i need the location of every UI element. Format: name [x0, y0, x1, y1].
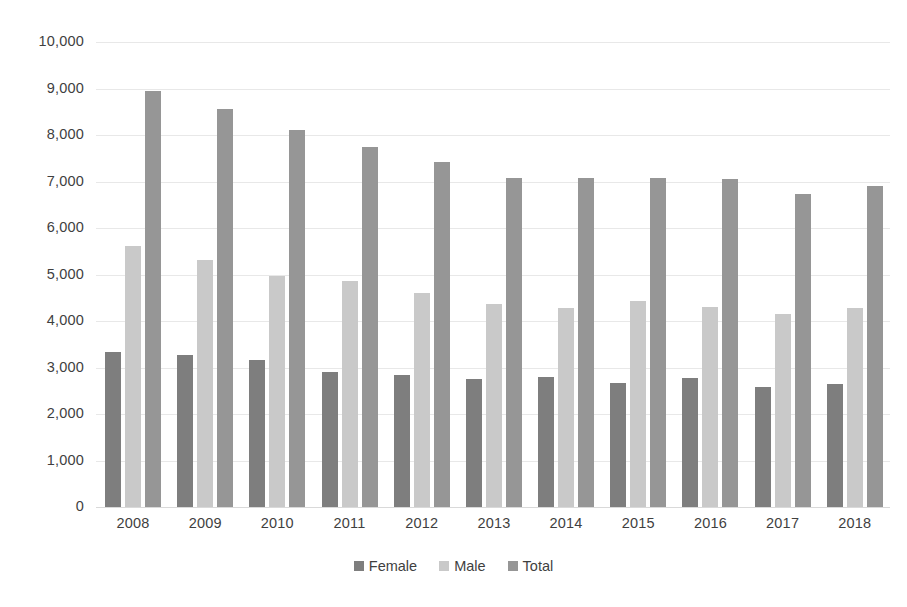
bar-group	[394, 42, 450, 507]
y-axis-tick-label: 2,000	[0, 406, 84, 421]
bar-group	[682, 42, 738, 507]
bar-group	[755, 42, 811, 507]
bar-total-2013[interactable]	[506, 178, 522, 507]
x-axis-tick-label: 2018	[815, 515, 895, 531]
y-axis-tick-label: 10,000	[0, 34, 84, 49]
bar-group	[466, 42, 522, 507]
bar-female-2009[interactable]	[177, 355, 193, 507]
bar-total-2012[interactable]	[434, 162, 450, 507]
bar-total-2015[interactable]	[650, 178, 666, 507]
x-axis-tick-label: 2012	[382, 515, 462, 531]
y-axis-tick-label: 0	[0, 499, 84, 514]
bar-total-2011[interactable]	[362, 147, 378, 507]
y-axis-tick-label: 3,000	[0, 360, 84, 375]
legend-item-female[interactable]: Female	[354, 558, 417, 574]
bar-male-2012[interactable]	[414, 293, 430, 507]
bar-total-2008[interactable]	[145, 91, 161, 507]
bar-group-bars	[755, 42, 811, 507]
bar-female-2013[interactable]	[466, 379, 482, 507]
legend-label: Male	[454, 558, 485, 574]
x-axis-tick-label: 2009	[165, 515, 245, 531]
bar-group-bars	[466, 42, 522, 507]
y-axis-tick-label: 6,000	[0, 220, 84, 235]
y-axis-tick-label: 7,000	[0, 174, 84, 189]
bar-male-2017[interactable]	[775, 314, 791, 507]
legend-item-total[interactable]: Total	[508, 558, 554, 574]
bar-total-2010[interactable]	[289, 130, 305, 507]
bar-group-bars	[538, 42, 594, 507]
bar-group	[322, 42, 378, 507]
y-axis-tick-label: 9,000	[0, 81, 84, 96]
bar-female-2018[interactable]	[827, 384, 843, 507]
bar-female-2017[interactable]	[755, 387, 771, 507]
y-axis-tick-label: 1,000	[0, 453, 84, 468]
bar-female-2010[interactable]	[249, 360, 265, 507]
bar-male-2009[interactable]	[197, 260, 213, 507]
x-axis-tick-label: 2016	[670, 515, 750, 531]
bar-group-bars	[682, 42, 738, 507]
x-axis-tick-label: 2013	[454, 515, 534, 531]
bar-group-bars	[105, 42, 161, 507]
bar-group	[105, 42, 161, 507]
chart-legend: FemaleMaleTotal	[0, 558, 907, 574]
legend-swatch-male-icon	[439, 561, 449, 571]
legend-label: Total	[523, 558, 554, 574]
bar-male-2014[interactable]	[558, 308, 574, 507]
bar-male-2011[interactable]	[342, 281, 358, 507]
bar-group-bars	[610, 42, 666, 507]
legend-swatch-total-icon	[508, 561, 518, 571]
x-axis-tick-label: 2010	[237, 515, 317, 531]
legend-label: Female	[369, 558, 417, 574]
bar-female-2008[interactable]	[105, 352, 121, 507]
bar-group	[177, 42, 233, 507]
bar-group-bars	[394, 42, 450, 507]
bar-group-bars	[249, 42, 305, 507]
y-axis-tick-label: 5,000	[0, 267, 84, 282]
bar-male-2015[interactable]	[630, 301, 646, 507]
bar-total-2016[interactable]	[722, 179, 738, 507]
bar-male-2013[interactable]	[486, 304, 502, 507]
bar-group	[610, 42, 666, 507]
bar-male-2010[interactable]	[269, 276, 285, 507]
bar-group-bars	[177, 42, 233, 507]
legend-item-male[interactable]: Male	[439, 558, 485, 574]
bar-female-2014[interactable]	[538, 377, 554, 507]
y-axis-tick-label: 4,000	[0, 313, 84, 328]
x-axis-tick-label: 2011	[310, 515, 390, 531]
bar-chart: 10,0009,0008,0007,0006,0005,0004,0003,00…	[0, 0, 907, 607]
bar-total-2009[interactable]	[217, 109, 233, 507]
bar-group	[538, 42, 594, 507]
plot-area	[96, 42, 890, 507]
x-axis-tick-label: 2015	[598, 515, 678, 531]
bar-total-2017[interactable]	[795, 194, 811, 507]
y-axis-tick-label: 8,000	[0, 127, 84, 142]
bar-male-2016[interactable]	[702, 307, 718, 507]
bar-group-bars	[322, 42, 378, 507]
legend-swatch-female-icon	[354, 561, 364, 571]
bar-group	[827, 42, 883, 507]
x-axis-tick-label: 2017	[743, 515, 823, 531]
x-axis-tick-label: 2014	[526, 515, 606, 531]
bar-total-2018[interactable]	[867, 186, 883, 507]
bar-male-2008[interactable]	[125, 246, 141, 507]
bar-female-2011[interactable]	[322, 372, 338, 507]
bar-group-bars	[827, 42, 883, 507]
bar-total-2014[interactable]	[578, 178, 594, 507]
bar-female-2016[interactable]	[682, 378, 698, 507]
gridline	[96, 507, 890, 508]
bar-male-2018[interactable]	[847, 308, 863, 507]
bar-female-2015[interactable]	[610, 383, 626, 507]
bar-group	[249, 42, 305, 507]
x-axis-tick-label: 2008	[93, 515, 173, 531]
bar-female-2012[interactable]	[394, 375, 410, 507]
